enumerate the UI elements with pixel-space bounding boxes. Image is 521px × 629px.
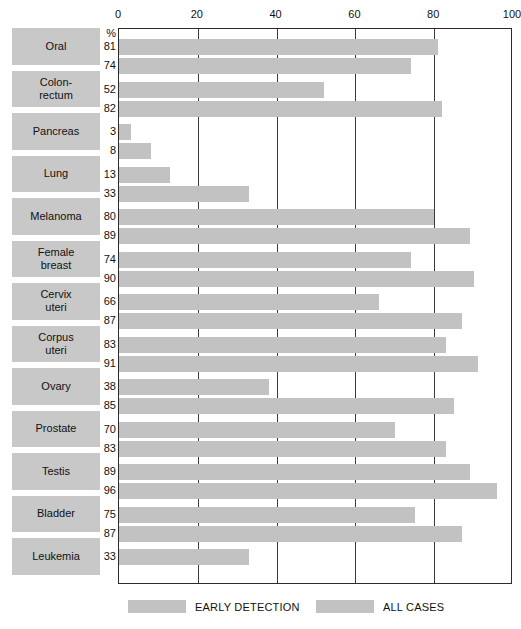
- bar: [119, 313, 462, 329]
- category-label-text: Melanoma: [30, 210, 81, 223]
- bar: [119, 228, 470, 244]
- bar-value-label: 52: [104, 84, 116, 95]
- bar-value-label: 8: [110, 145, 116, 156]
- value-label-gutter: % 81745282381333808974906687839138857083…: [100, 28, 118, 584]
- category-label-box: Lung: [12, 156, 100, 193]
- bar-value-label: 38: [104, 381, 116, 392]
- category-label-text: Femalebreast: [38, 246, 75, 272]
- bar: [119, 294, 379, 310]
- bar: [119, 39, 438, 55]
- bar: [119, 271, 474, 287]
- bar-value-label: 70: [104, 424, 116, 435]
- x-tick-label: 60: [348, 8, 360, 20]
- bar-value-label: 89: [104, 466, 116, 477]
- x-tick-label: 80: [427, 8, 439, 20]
- legend-label: ALL CASES: [383, 601, 444, 613]
- category-label-box: Cervixuteri: [12, 283, 100, 320]
- legend-swatch: [128, 600, 186, 613]
- x-tick-label: 40: [269, 8, 281, 20]
- bar-value-label: 96: [104, 485, 116, 496]
- bar: [119, 209, 434, 225]
- category-label-text: Prostate: [36, 422, 77, 435]
- bar: [119, 441, 446, 457]
- x-axis-top: 020406080100: [118, 8, 512, 26]
- category-label-box: Pancreas: [12, 113, 100, 150]
- legend-item: ALL CASES: [316, 600, 444, 613]
- category-label-box: Melanoma: [12, 198, 100, 235]
- bar-value-label: 3: [110, 126, 116, 137]
- category-label-text: Leukemia: [32, 550, 80, 563]
- bar-value-label: 89: [104, 230, 116, 241]
- bar-value-label: 83: [104, 443, 116, 454]
- bar: [119, 143, 151, 159]
- bar: [119, 464, 470, 480]
- category-label-text: Testis: [42, 465, 70, 478]
- survival-rate-bar-chart: 020406080100 OralColon-rectumPancreasLun…: [0, 0, 521, 629]
- x-tick-label: 0: [115, 8, 121, 20]
- legend-label: EARLY DETECTION: [195, 601, 300, 613]
- category-label-box: Prostate: [12, 411, 100, 448]
- x-tick-label: 100: [503, 8, 521, 20]
- bar-value-label: 75: [104, 509, 116, 520]
- bar-value-label: 90: [104, 273, 116, 284]
- plot-area: [118, 28, 512, 584]
- bar: [119, 186, 249, 202]
- bar: [119, 398, 454, 414]
- legend-swatch: [316, 600, 374, 613]
- bar-value-label: 82: [104, 103, 116, 114]
- category-label-box: Corpusuteri: [12, 326, 100, 363]
- bar: [119, 167, 170, 183]
- bar: [119, 58, 411, 74]
- bar: [119, 252, 411, 268]
- bar: [119, 379, 269, 395]
- bar: [119, 483, 497, 499]
- category-label-text: Pancreas: [33, 125, 79, 138]
- bar-value-label: 80: [104, 211, 116, 222]
- bar-value-label: 66: [104, 296, 116, 307]
- category-label-text: Lung: [44, 167, 68, 180]
- bar: [119, 526, 462, 542]
- percent-unit-label: %: [106, 28, 116, 39]
- bar-value-label: 33: [104, 188, 116, 199]
- category-label-box: Testis: [12, 453, 100, 490]
- x-tick-label: 20: [191, 8, 203, 20]
- bar-value-label: 85: [104, 400, 116, 411]
- category-label-text: Corpusuteri: [38, 331, 73, 357]
- bar: [119, 82, 324, 98]
- bar-value-label: 83: [104, 339, 116, 350]
- bar-value-label: 91: [104, 358, 116, 369]
- bar-value-label: 33: [104, 551, 116, 562]
- category-label-box: Femalebreast: [12, 241, 100, 278]
- category-label-text: Colon-rectum: [39, 76, 73, 102]
- category-label-box: Leukemia: [12, 538, 100, 575]
- bar-value-label: 74: [104, 254, 116, 265]
- chart-legend: EARLY DETECTIONALL CASES: [118, 600, 512, 620]
- bar-value-label: 87: [104, 315, 116, 326]
- category-label-box: Colon-rectum: [12, 71, 100, 108]
- bar-value-label: 81: [104, 41, 116, 52]
- bar-value-label: 74: [104, 60, 116, 71]
- category-label-text: Bladder: [37, 507, 75, 520]
- bar: [119, 337, 446, 353]
- bar: [119, 422, 395, 438]
- category-label-text: Ovary: [41, 380, 70, 393]
- bar: [119, 549, 249, 565]
- bar: [119, 356, 478, 372]
- bar: [119, 124, 131, 140]
- bar: [119, 507, 415, 523]
- category-label-column: OralColon-rectumPancreasLungMelanomaFema…: [12, 28, 100, 584]
- category-label-text: Oral: [46, 40, 67, 53]
- category-label-text: Cervixuteri: [40, 288, 71, 314]
- category-label-box: Ovary: [12, 368, 100, 405]
- bar: [119, 101, 442, 117]
- bar-value-label: 87: [104, 528, 116, 539]
- legend-item: EARLY DETECTION: [128, 600, 300, 613]
- category-label-box: Bladder: [12, 496, 100, 533]
- bar-value-label: 13: [104, 169, 116, 180]
- category-label-box: Oral: [12, 28, 100, 65]
